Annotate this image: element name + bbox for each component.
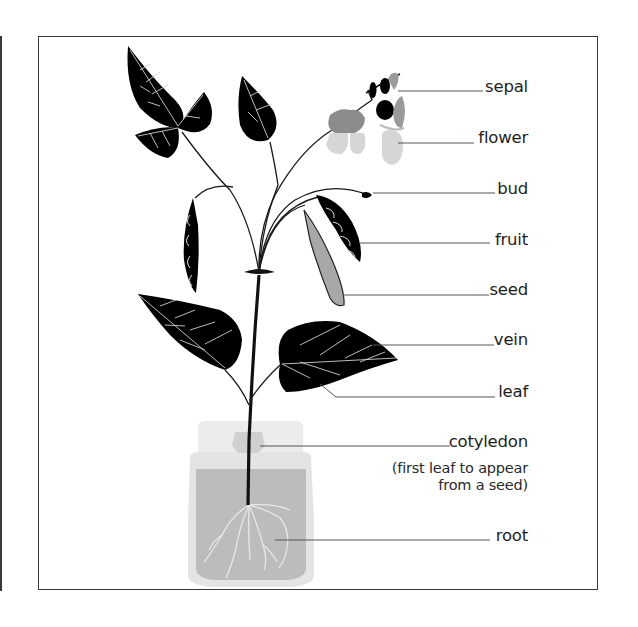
jar-soil [196,469,306,580]
pods [184,195,361,306]
label-fruit: fruit [495,230,528,249]
bud-shape [362,192,372,198]
label-vein: vein [494,330,528,349]
lower-left-leaf [138,294,242,370]
label-seed: seed [489,280,528,299]
upper-leaves [128,46,277,158]
leader-leaf [320,384,495,397]
bud-small [370,82,377,98]
cotyledon-note-line1: (first leaf to appear [392,459,528,477]
flowers [326,73,405,198]
flower-left-dark [328,109,365,133]
label-leaf: leaf [498,382,528,401]
label-cotyledon: cotyledon [449,432,528,451]
label-root: root [496,526,528,545]
label-bud: bud [497,179,528,198]
left-pod [184,198,199,293]
cotyledon-note-line2: from a seed) [438,476,528,494]
label-sepal: sepal [485,77,528,96]
flower-right-light [382,130,403,165]
label-flower: flower [478,128,528,147]
plant-illustration [0,0,638,627]
lower-right-leaf [279,321,398,392]
